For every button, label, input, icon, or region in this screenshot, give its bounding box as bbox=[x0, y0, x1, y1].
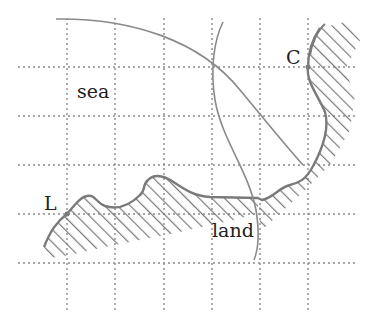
point-c-marker bbox=[306, 65, 311, 70]
label-sea: sea bbox=[77, 80, 109, 102]
label-point-l: L bbox=[44, 192, 57, 214]
label-land: land bbox=[212, 219, 254, 241]
coastline-diagram: sea land L C bbox=[0, 0, 382, 331]
land-region-south bbox=[44, 176, 258, 258]
label-point-c: C bbox=[286, 46, 301, 68]
point-l-marker bbox=[65, 212, 70, 217]
